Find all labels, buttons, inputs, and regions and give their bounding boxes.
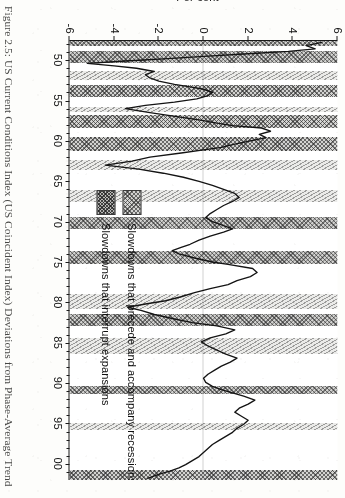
legend: Slowdowns that precede and accompany rec… bbox=[89, 190, 141, 480]
x-tick-minor bbox=[67, 109, 70, 110]
x-tick-minor bbox=[67, 52, 70, 53]
x-tick-minor bbox=[67, 335, 70, 336]
x-tick-major bbox=[65, 343, 69, 344]
x-tick-minor bbox=[67, 117, 70, 118]
x-tick-label: 85 bbox=[51, 336, 63, 349]
x-tick-major bbox=[65, 464, 69, 465]
plot-area: Slowdowns that precede and accompany rec… bbox=[69, 40, 337, 480]
x-tick-minor bbox=[67, 76, 70, 77]
x-tick-minor bbox=[67, 44, 70, 45]
x-tick-minor bbox=[67, 286, 70, 287]
y-tick bbox=[68, 36, 69, 40]
legend-item-slowdown: Slowdowns that interrupt expansions bbox=[96, 190, 115, 480]
y-tick-label: 4 bbox=[286, 10, 298, 34]
y-tick-label: 0 bbox=[197, 10, 209, 34]
x-tick-minor bbox=[67, 278, 70, 279]
legend-label-recession: Slowdowns that precede and accompany rec… bbox=[126, 223, 138, 480]
legend-label-slowdown: Slowdowns that interrupt expansions bbox=[100, 223, 112, 406]
x-tick-minor bbox=[67, 391, 70, 392]
x-tick-major bbox=[65, 101, 69, 102]
x-tick-minor bbox=[67, 238, 70, 239]
y-tick-label: 6 bbox=[331, 10, 343, 34]
y-tick bbox=[291, 36, 292, 40]
x-tick-minor bbox=[67, 125, 70, 126]
legend-swatch-recession-icon bbox=[122, 190, 141, 215]
x-tick-major bbox=[65, 141, 69, 142]
x-tick-minor bbox=[67, 254, 70, 255]
y-tick bbox=[157, 36, 158, 40]
y-tick-label: 2 bbox=[242, 10, 254, 34]
x-tick-minor bbox=[67, 294, 70, 295]
x-tick-minor bbox=[67, 246, 70, 247]
x-axis bbox=[68, 40, 69, 480]
x-tick-minor bbox=[67, 456, 70, 457]
figure-caption: Figure 2.5: US Current Conditions Index … bbox=[2, 6, 14, 492]
x-tick-minor bbox=[67, 84, 70, 85]
figure: Slowdowns that precede and accompany rec… bbox=[0, 0, 345, 498]
x-tick-minor bbox=[67, 197, 70, 198]
x-tick-minor bbox=[67, 68, 70, 69]
x-tick-label: 95 bbox=[51, 417, 63, 430]
x-tick-minor bbox=[67, 230, 70, 231]
x-tick-minor bbox=[67, 319, 70, 320]
x-tick-minor bbox=[67, 359, 70, 360]
x-tick-minor bbox=[67, 206, 70, 207]
y-tick bbox=[113, 36, 114, 40]
x-tick-label: 55 bbox=[51, 94, 63, 107]
x-tick-label: 90 bbox=[51, 377, 63, 390]
x-tick-label: 50 bbox=[51, 54, 63, 67]
y-tick bbox=[202, 36, 203, 40]
x-tick-major bbox=[65, 181, 69, 182]
x-tick-minor bbox=[67, 448, 70, 449]
x-tick-minor bbox=[67, 415, 70, 416]
y-tick-label: -4 bbox=[108, 10, 120, 34]
x-tick-major bbox=[65, 60, 69, 61]
x-tick-major bbox=[65, 222, 69, 223]
legend-swatch-slowdown-icon bbox=[96, 190, 115, 215]
x-tick-minor bbox=[67, 440, 70, 441]
y-tick-label: -6 bbox=[63, 10, 75, 34]
x-tick-minor bbox=[67, 399, 70, 400]
x-tick-minor bbox=[67, 407, 70, 408]
x-tick-minor bbox=[67, 92, 70, 93]
x-tick-minor bbox=[67, 367, 70, 368]
x-tick-minor bbox=[67, 189, 70, 190]
x-tick-minor bbox=[67, 270, 70, 271]
x-tick-label: 60 bbox=[51, 134, 63, 147]
x-tick-major bbox=[65, 302, 69, 303]
x-tick-minor bbox=[67, 432, 70, 433]
x-tick-label: 70 bbox=[51, 215, 63, 228]
x-tick-major bbox=[65, 383, 69, 384]
y-tick bbox=[336, 36, 337, 40]
x-tick-minor bbox=[67, 157, 70, 158]
x-tick-minor bbox=[67, 165, 70, 166]
x-tick-minor bbox=[67, 214, 70, 215]
x-tick-label: 75 bbox=[51, 256, 63, 269]
legend-item-recession: Slowdowns that precede and accompany rec… bbox=[122, 190, 141, 480]
y-axis bbox=[69, 40, 337, 41]
x-tick-minor bbox=[67, 173, 70, 174]
x-tick-label: 00 bbox=[51, 457, 63, 470]
x-tick-label: 65 bbox=[51, 175, 63, 188]
x-tick-minor bbox=[67, 310, 70, 311]
x-tick-minor bbox=[67, 149, 70, 150]
x-tick-minor bbox=[67, 351, 70, 352]
x-tick-label: 80 bbox=[51, 296, 63, 309]
x-tick-minor bbox=[67, 133, 70, 134]
x-tick-major bbox=[65, 423, 69, 424]
x-tick-minor bbox=[67, 327, 70, 328]
x-tick-minor bbox=[67, 375, 70, 376]
y-axis-title: Per cent bbox=[176, 0, 219, 3]
x-tick-minor bbox=[67, 472, 70, 473]
y-tick bbox=[247, 36, 248, 40]
x-tick-major bbox=[65, 262, 69, 263]
y-tick-label: -2 bbox=[152, 10, 164, 34]
